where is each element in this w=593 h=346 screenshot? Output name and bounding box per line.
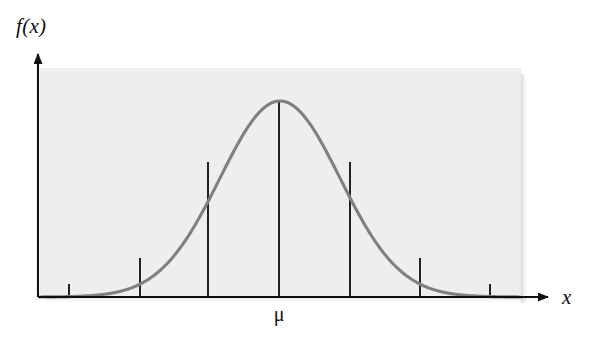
figure-canvas [0,0,593,346]
plot-panel-group [40,68,529,304]
panel-shadow-right [521,74,529,303]
mean-label: μ [0,303,593,326]
mean-label-text: μ [274,303,285,326]
normal-distribution-figure: f(x) x μ [0,0,593,346]
y-axis-label: f(x) [16,14,46,39]
